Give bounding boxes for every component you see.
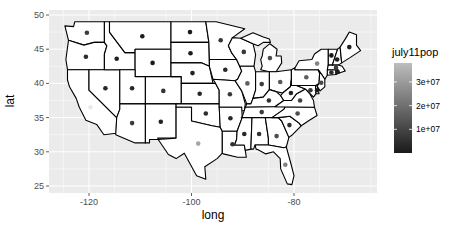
point-ga	[274, 134, 279, 139]
point-fl	[283, 163, 288, 168]
point-de	[315, 88, 320, 93]
x-tick-label: -120	[80, 197, 98, 207]
point-az	[130, 121, 135, 126]
point-mt	[140, 34, 145, 39]
point-wa	[85, 31, 90, 36]
point-ri	[335, 70, 340, 75]
point-ca	[88, 105, 93, 110]
point-mi	[268, 56, 273, 61]
legend-title: july11pop	[391, 46, 438, 58]
point-wi	[242, 50, 247, 55]
colorbar	[394, 63, 412, 153]
point-tn	[259, 110, 264, 115]
point-vt	[329, 53, 334, 58]
point-ar	[228, 116, 233, 121]
legend-tick-label: 3e+07	[416, 77, 440, 87]
y-tick-label: 40	[34, 78, 44, 88]
point-nm	[159, 119, 164, 124]
legend-tick-label: 1e+07	[416, 124, 440, 134]
point-ia	[223, 67, 228, 72]
point-ks	[197, 91, 202, 96]
point-mn	[218, 38, 223, 43]
point-oh	[278, 80, 283, 85]
y-tick-label: 30	[34, 147, 44, 157]
us-map-chart: 253035404550 -120-100-80 long lat july11…	[0, 0, 459, 230]
x-tick-label: -80	[287, 197, 300, 207]
point-ma	[334, 65, 339, 70]
point-in	[259, 82, 264, 87]
point-wv	[289, 91, 294, 96]
point-id	[114, 57, 119, 62]
point-ny	[315, 61, 320, 66]
x-axis: -120-100-80	[80, 193, 301, 207]
y-axis-label: lat	[3, 94, 17, 107]
y-tick-label: 35	[34, 113, 44, 123]
point-ut	[130, 86, 135, 91]
point-or	[84, 54, 89, 59]
y-tick-label: 45	[34, 44, 44, 54]
point-sd	[188, 51, 193, 56]
point-ct	[329, 70, 334, 75]
point-mo	[228, 92, 233, 97]
point-pa	[304, 75, 309, 80]
point-al	[257, 132, 262, 137]
point-nv	[103, 86, 108, 91]
point-nh	[335, 57, 340, 62]
y-tick-label: 25	[34, 181, 44, 191]
point-ne	[190, 71, 195, 76]
point-sc	[287, 123, 292, 128]
point-va	[298, 98, 303, 103]
x-axis-label: long	[202, 208, 225, 222]
y-tick-label: 50	[34, 10, 44, 20]
y-axis: 253035404550	[34, 10, 49, 191]
point-ok	[204, 111, 209, 116]
legend: july11pop 3e+072e+071e+07	[391, 46, 440, 153]
point-il	[245, 81, 250, 86]
point-ms	[242, 132, 247, 137]
x-tick-label: -100	[182, 197, 200, 207]
point-wy	[150, 61, 155, 66]
legend-tick-label: 2e+07	[416, 101, 440, 111]
point-nd	[188, 30, 193, 35]
point-nc	[295, 111, 300, 116]
point-md	[308, 88, 313, 93]
point-me	[347, 45, 352, 50]
point-nj	[319, 80, 324, 85]
point-co	[161, 89, 166, 94]
point-ky	[267, 98, 272, 103]
point-tx	[196, 141, 201, 146]
point-la	[230, 142, 235, 147]
